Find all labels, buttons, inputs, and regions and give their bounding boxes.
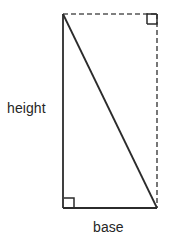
height-label: height [7,100,46,116]
top-right-right-angle-icon-closing [147,14,157,24]
triangle-diagram: height base [0,0,170,241]
hypotenuse-edge [63,14,157,208]
bottom-left-right-angle-icon [64,198,74,208]
top-right-right-angle-icon [147,14,157,24]
base-label: base [93,219,124,235]
triangle-svg [0,0,170,241]
